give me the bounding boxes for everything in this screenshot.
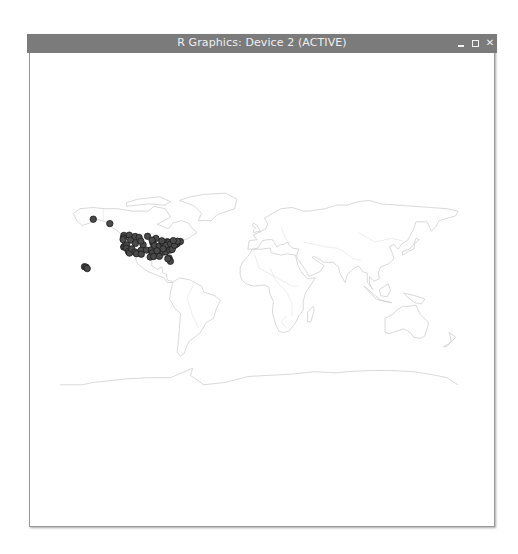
country-border [358, 233, 402, 243]
country-border [254, 250, 298, 286]
landmass-new-zealand [444, 333, 456, 347]
data-point [149, 237, 155, 243]
country-border [270, 268, 292, 316]
landmass-antarctica [60, 368, 458, 385]
data-point [170, 237, 176, 243]
landmass-japan [403, 238, 420, 255]
data-point [107, 220, 113, 226]
landmass-greenland [179, 193, 237, 220]
country-border [187, 286, 198, 328]
country-border [281, 227, 290, 244]
landmass-south-america [170, 278, 221, 357]
maximize-button[interactable] [469, 36, 481, 50]
maximize-icon [472, 40, 479, 47]
landmass-madagascar [308, 306, 315, 322]
landmass-africa [240, 248, 315, 333]
close-button[interactable]: ✕ [484, 36, 496, 50]
title-bar[interactable]: R Graphics: Device 2 (ACTIVE) ✕ [27, 34, 497, 53]
landmass-arctic-islands [126, 197, 170, 207]
country-border [303, 242, 342, 250]
window-title: R Graphics: Device 2 (ACTIVE) [27, 36, 497, 49]
data-point [84, 265, 90, 271]
landmass-uk [252, 223, 260, 233]
world-map-plot [30, 53, 494, 526]
r-graphics-window: R Graphics: Device 2 (ACTIVE) ✕ [29, 34, 495, 527]
data-point [154, 248, 160, 254]
data-point [160, 246, 166, 252]
landmass-new-guinea [404, 293, 425, 304]
point-layer [81, 216, 183, 272]
country-border [342, 250, 361, 260]
landmass-australia [385, 305, 428, 338]
close-icon: ✕ [486, 37, 494, 48]
country-border [281, 316, 287, 328]
data-point [90, 216, 96, 222]
minimize-button[interactable] [455, 36, 467, 50]
landmass-indonesia [364, 286, 392, 303]
plot-canvas [30, 53, 494, 526]
minimize-icon [458, 45, 464, 47]
data-point [159, 238, 165, 244]
data-point [138, 238, 144, 244]
data-point [165, 256, 171, 262]
landmass-borneo [379, 284, 390, 297]
landmass-eurasia [248, 200, 458, 289]
world-basemap [60, 193, 458, 385]
